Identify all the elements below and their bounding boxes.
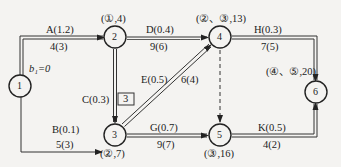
start-time-label: b₁=0: [29, 64, 50, 75]
node-3-label: 3: [112, 130, 117, 140]
node-2-label: 2: [112, 32, 117, 42]
node-6-label: 6: [313, 87, 318, 97]
edge-C: [114, 49, 117, 123]
edge-H-name: H(0.3): [254, 25, 282, 36]
node-5-mark: (③,16): [204, 149, 234, 160]
node-4-mark: (②、③,13): [196, 14, 246, 25]
node-4-label: 4: [217, 32, 222, 42]
edge-B-name: B(0.1): [52, 125, 79, 136]
node-3-mark: (②,7): [100, 149, 125, 160]
node-6-mark: (④、⑤,20): [266, 67, 316, 78]
edge-A-name: A(1.2): [46, 25, 74, 36]
edge-E-name: E(0.5): [141, 75, 168, 86]
edge-A-duration: 4(3): [50, 42, 68, 53]
edge-G-name: G(0.7): [150, 123, 178, 134]
edge-D-name: D(0.4): [146, 25, 174, 36]
edge-H-duration: 7(5): [261, 42, 279, 53]
boxed-value: 3: [123, 94, 128, 105]
node-1-label: 1: [17, 81, 22, 91]
edge-D: [127, 37, 208, 40]
edge-K-duration: 4(2): [263, 140, 281, 151]
edge-B-duration: 5(3): [56, 140, 74, 151]
node-2-mark: (①,4): [101, 14, 126, 25]
edge-G-duration: 9(7): [157, 140, 175, 151]
edge-G: [127, 134, 208, 137]
node-5-label: 5: [217, 130, 222, 140]
edge-C-name: C(0.3): [82, 95, 109, 106]
edge-E-duration: 6(4): [181, 75, 199, 86]
edge-K-name: K(0.5): [258, 123, 286, 134]
edge-D-duration: 9(6): [150, 42, 168, 53]
network-diagram: 1 2 3 4 5 6 (①,4) (②,7) (②、③,13) (③,16) …: [0, 0, 341, 167]
